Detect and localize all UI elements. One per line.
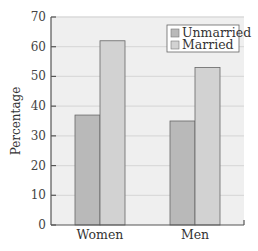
y-tick-label: 10: [31, 188, 46, 202]
legend-swatch-married: [171, 41, 179, 49]
y-tick-label: 30: [31, 129, 46, 143]
bar-chart: 010203040506070 WomenMen Percentage Unma…: [0, 0, 258, 251]
legend: UnmarriedMarried: [167, 25, 251, 52]
x-axis-labels: WomenMen: [77, 227, 210, 242]
bar-married-women: [100, 41, 125, 225]
y-tick-label: 60: [31, 40, 46, 54]
y-tick-label: 70: [31, 10, 46, 24]
bar-married-men: [195, 68, 220, 225]
x-category-label: Men: [181, 227, 209, 242]
bar-unmarried-women: [75, 115, 100, 225]
x-category-label: Women: [77, 227, 124, 242]
y-tick-label: 20: [31, 159, 46, 173]
legend-swatch-unmarried: [171, 29, 179, 37]
y-tick-label: 50: [31, 69, 46, 83]
bar-unmarried-men: [170, 121, 195, 225]
legend-label-married: Married: [182, 37, 234, 52]
y-tick-label: 0: [38, 218, 46, 232]
y-axis-title: Percentage: [9, 87, 23, 156]
y-tick-label: 40: [31, 99, 46, 113]
